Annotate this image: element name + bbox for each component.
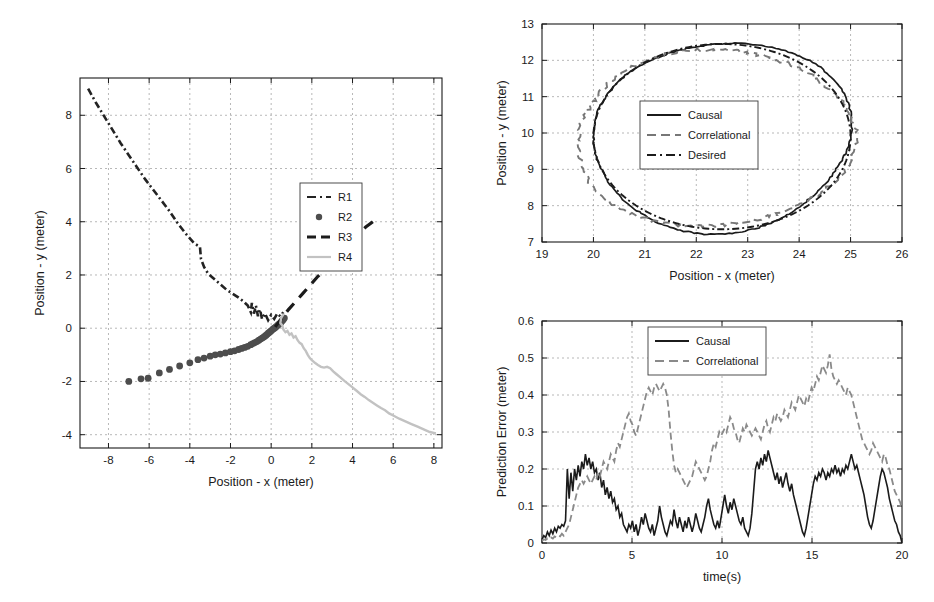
legend: CausalCorrelational: [648, 327, 766, 375]
y-tick-label: 9: [528, 163, 534, 175]
x-tick-label: 21: [638, 248, 651, 260]
x-tick-label: 10: [716, 549, 729, 561]
data-marker: [166, 366, 173, 373]
y-tick-label: 0: [528, 537, 534, 549]
y-axis-title: Position - y (meter): [33, 210, 47, 316]
x-tick-label: 20: [896, 549, 909, 561]
data-marker: [201, 355, 208, 362]
legend-label: Correlational: [688, 129, 750, 141]
y-tick-label: 13: [521, 18, 534, 30]
x-tick-label: 19: [536, 248, 549, 260]
y-tick-label: 11: [522, 91, 534, 103]
y-tick-label: 10: [521, 127, 534, 139]
y-tick-label: 0.4: [518, 389, 535, 401]
data-marker: [138, 375, 145, 382]
trajectory-panel: -8-6-4-202468-4-202468Position - x (mete…: [18, 60, 468, 530]
y-tick-label: 2: [66, 269, 72, 281]
axis-ticks: -8-6-4-202468-4-202468: [62, 78, 442, 466]
x-tick-label: -2: [225, 454, 235, 466]
x-tick-label: -8: [103, 454, 113, 466]
prediction-error-panel: 0510152000.10.20.30.40.50.6time(s)Predic…: [480, 305, 930, 597]
data-marker: [125, 378, 132, 385]
y-axis-title: Prediction Error (meter): [495, 367, 509, 498]
legend-label: R4: [338, 251, 352, 263]
legend-label: Correlational: [696, 355, 758, 367]
legend-label: R1: [338, 191, 352, 203]
x-axis-title: Position - x (meter): [208, 475, 314, 489]
series-group: [88, 89, 436, 434]
x-tick-label: 4: [349, 454, 356, 466]
legend-label: R3: [338, 231, 352, 243]
series-R1: [88, 89, 283, 321]
legend-label: R2: [338, 211, 352, 223]
x-tick-label: 23: [741, 248, 754, 260]
y-tick-label: 6: [66, 163, 72, 175]
y-tick-label: 0.1: [518, 500, 534, 512]
x-tick-label: -4: [185, 454, 196, 466]
data-marker: [156, 370, 163, 377]
series-R2: [125, 315, 287, 385]
y-tick-label: 7: [528, 236, 534, 248]
x-tick-label: 25: [844, 248, 857, 260]
legend-marker: [316, 214, 322, 220]
y-tick-label: 0.5: [518, 352, 534, 364]
y-tick-label: 8: [528, 200, 534, 212]
legend-label: Causal: [688, 109, 722, 121]
circle-tracking-panel: 192021222324252678910111213Position - x …: [480, 8, 930, 293]
y-tick-label: 0.6: [518, 315, 534, 327]
x-tick-label: 26: [896, 248, 909, 260]
x-tick-label: -6: [144, 454, 154, 466]
x-axis-title: Position - x (meter): [669, 269, 775, 283]
y-tick-label: -4: [62, 429, 73, 441]
data-marker: [176, 363, 183, 370]
x-tick-label: 2: [309, 454, 315, 466]
legend: R1R2R3R4: [300, 183, 362, 271]
legend-label: Desired: [688, 149, 726, 161]
data-marker: [145, 375, 152, 382]
legend: CausalCorrelationalDesired: [640, 101, 758, 169]
x-tick-label: 0: [268, 454, 274, 466]
legend-label: Causal: [696, 335, 730, 347]
x-tick-label: 24: [793, 248, 806, 260]
y-tick-label: 0.3: [518, 426, 534, 438]
x-tick-label: 5: [629, 549, 635, 561]
prediction-error-plot: 0510152000.10.20.30.40.50.6time(s)Predic…: [480, 305, 930, 597]
x-tick-label: 6: [390, 454, 396, 466]
y-tick-label: -2: [62, 375, 72, 387]
x-tick-label: 22: [690, 248, 703, 260]
x-tick-label: 20: [587, 248, 600, 260]
y-tick-label: 8: [66, 109, 72, 121]
x-tick-label: 8: [431, 454, 437, 466]
x-tick-label: 15: [806, 549, 819, 561]
grid-lines: [80, 78, 442, 448]
axis-frame: [80, 78, 442, 448]
x-axis-title: time(s): [703, 570, 741, 584]
data-marker: [186, 359, 193, 366]
y-axis-title: Position - y (meter): [495, 80, 509, 186]
y-tick-label: 4: [66, 216, 73, 228]
trajectory-plot: -8-6-4-202468-4-202468Position - x (mete…: [18, 60, 468, 530]
series-R4: [280, 314, 436, 434]
circle-tracking-plot: 192021222324252678910111213Position - x …: [480, 8, 930, 293]
x-tick-label: 0: [539, 549, 545, 561]
y-tick-label: 12: [521, 54, 534, 66]
y-tick-label: 0.2: [518, 463, 534, 475]
y-tick-label: 0: [66, 322, 72, 334]
data-marker: [195, 356, 202, 363]
